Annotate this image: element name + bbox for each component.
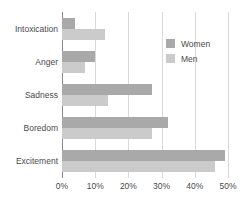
legend: WomenMen xyxy=(166,36,210,66)
y-axis-category-label: Sadness xyxy=(0,90,58,100)
legend-item: Women xyxy=(166,36,210,51)
bar xyxy=(62,51,95,62)
x-axis-tick-label: 30% xyxy=(153,181,170,192)
bar-chart: IntoxicationAngerSadnessBoredomExcitemen… xyxy=(0,0,244,205)
bar-group xyxy=(62,78,228,111)
x-axis-tick-label: 20% xyxy=(120,181,137,192)
bar xyxy=(62,84,152,95)
bar xyxy=(62,29,105,40)
bar xyxy=(62,95,108,106)
bar xyxy=(62,128,152,139)
bar xyxy=(62,150,225,161)
y-axis-category-label: Intoxication xyxy=(0,24,58,34)
gridline xyxy=(228,12,229,178)
bar-group xyxy=(62,112,228,145)
x-axis-tick-label: 0% xyxy=(56,181,68,192)
y-axis-category-label: Excitement xyxy=(0,156,58,166)
y-axis-category-labels: IntoxicationAngerSadnessBoredomExcitemen… xyxy=(0,12,58,178)
legend-label: Women xyxy=(181,39,210,49)
x-axis-tick-label: 40% xyxy=(186,181,203,192)
x-axis-tick-label: 10% xyxy=(87,181,104,192)
bar xyxy=(62,62,85,73)
x-axis-tick-labels: 0%10%20%30%40%50% xyxy=(62,181,228,197)
legend-label: Men xyxy=(181,54,198,64)
bar xyxy=(62,117,168,128)
legend-item: Men xyxy=(166,51,210,66)
bar xyxy=(62,18,75,29)
bar-group xyxy=(62,145,228,178)
y-axis-category-label: Boredom xyxy=(0,123,58,133)
bar xyxy=(62,161,215,172)
x-axis-tick-label: 50% xyxy=(219,181,236,192)
legend-swatch-icon xyxy=(166,39,175,48)
legend-swatch-icon xyxy=(166,54,175,63)
y-axis-category-label: Anger xyxy=(0,57,58,67)
